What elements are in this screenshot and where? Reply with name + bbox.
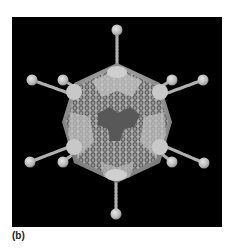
virus-model-image (12, 17, 222, 227)
virus-capsid-illustration (12, 17, 222, 227)
panel-label: (b) (12, 230, 25, 241)
capsid (62, 63, 172, 183)
